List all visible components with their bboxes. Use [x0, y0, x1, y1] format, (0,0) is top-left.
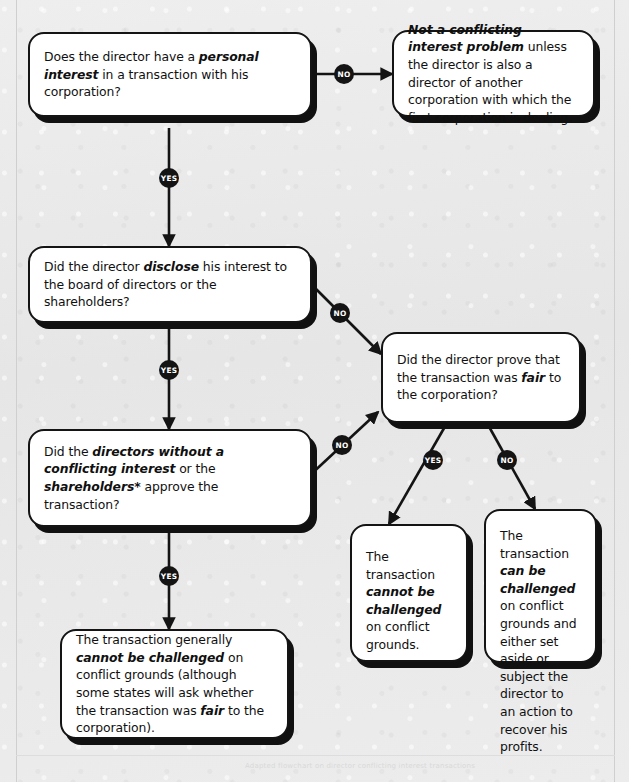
- edge-label-q3-no: NO: [497, 450, 517, 470]
- edge-label-q1-yes: YES: [159, 168, 179, 188]
- node-q4-text: Did the directors without a conflicting …: [44, 443, 296, 513]
- edge-label-q4-no: NO: [332, 435, 352, 455]
- edge-q3-to-r2: [389, 423, 447, 524]
- node-q1-personal-interest[interactable]: Does the director have a personal intere…: [28, 32, 312, 117]
- node-q1-text: Does the director have a personal intere…: [44, 48, 296, 101]
- node-r4-text: The transaction generally cannot be chal…: [76, 631, 273, 737]
- node-q4-approval[interactable]: Did the directors without a conflicting …: [28, 429, 312, 527]
- node-r3-text: The transaction can be challenged on con…: [500, 527, 581, 756]
- edge-label-q2-no: NO: [330, 303, 350, 323]
- node-q3-text: Did the director prove that the transact…: [397, 351, 565, 404]
- node-r3-can-be-challenged[interactable]: The transaction can be challenged on con…: [484, 509, 597, 663]
- node-q3-fair[interactable]: Did the director prove that the transact…: [381, 332, 581, 423]
- edge-label-q1-no: NO: [334, 64, 354, 84]
- node-r1-not-a-problem[interactable]: Not a conflicting interest problem unles…: [392, 30, 595, 117]
- node-q2-text: Did the director disclose his interest t…: [44, 258, 296, 311]
- node-r4-generally-cannot-be-challenged[interactable]: The transaction generally cannot be chal…: [60, 629, 289, 739]
- node-r2-text: The transaction cannot be challenged on …: [366, 548, 452, 654]
- edge-label-q4-yes: YES: [159, 566, 179, 586]
- edge-label-q2-yes: YES: [159, 360, 179, 380]
- node-r2-cannot-be-challenged[interactable]: The transaction cannot be challenged on …: [350, 524, 468, 662]
- node-q2-disclose[interactable]: Did the director disclose his interest t…: [28, 246, 312, 323]
- edge-label-q3-yes: YES: [423, 450, 443, 470]
- node-r1-text: Not a conflicting interest problem unles…: [408, 21, 579, 127]
- flowchart-page: NO YES NO YES NO YES YES NO Does the dir…: [0, 0, 629, 782]
